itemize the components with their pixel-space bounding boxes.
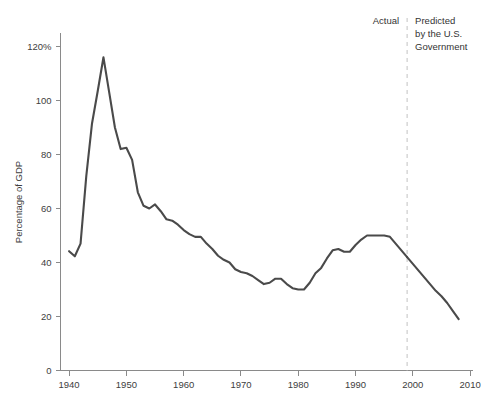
y-tick-label: 60 [41, 203, 52, 214]
y-axis-title: Percentage of GDP [13, 161, 24, 243]
predicted-annotation-line-2: by the U.S. [415, 28, 462, 39]
y-axis-ticks: 020406080100120% [27, 41, 60, 376]
x-tick-label: 1990 [345, 379, 366, 390]
y-tick-label: 120% [27, 41, 52, 52]
y-tick-label: 20 [41, 311, 52, 322]
x-tick-label: 1970 [230, 379, 251, 390]
x-tick-label: 1980 [288, 379, 309, 390]
chart-container: 020406080100120% 19401950196019701980199… [0, 0, 491, 408]
x-tick-label: 1950 [116, 379, 137, 390]
x-tick-label: 1960 [173, 379, 194, 390]
actual-annotation-label: Actual [373, 15, 399, 26]
y-tick-label: 80 [41, 149, 52, 160]
series-line-actual [69, 57, 407, 289]
x-tick-label: 2000 [402, 379, 423, 390]
y-tick-label: 40 [41, 257, 52, 268]
predicted-annotation-line-1: Predicted [415, 15, 455, 26]
x-tick-label: 2010 [460, 379, 481, 390]
x-axis-ticks: 19401950196019701980199020002010 [59, 371, 481, 390]
series-line-predicted [407, 257, 459, 319]
y-tick-label: 0 [46, 365, 51, 376]
y-tick-label: 100 [36, 95, 52, 106]
line-chart: 020406080100120% 19401950196019701980199… [0, 0, 491, 408]
predicted-annotation-line-3: Government [415, 41, 468, 52]
x-tick-label: 1940 [59, 379, 80, 390]
